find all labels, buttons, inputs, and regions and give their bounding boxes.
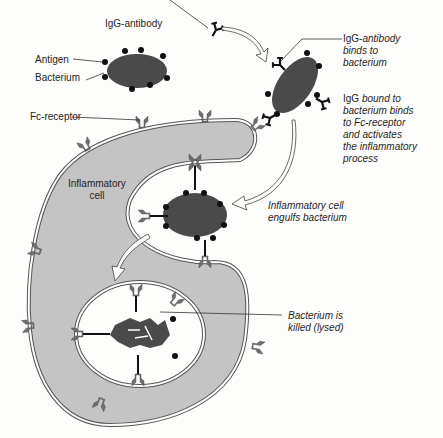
label-igg-antibody: IgG-antibody (105, 18, 162, 30)
step-binds: IgG-antibody binds to bacterium (343, 33, 400, 69)
fc-receptor-icon (251, 340, 265, 354)
opsonized-bacterium (260, 49, 331, 128)
free-bacterium (102, 47, 170, 92)
step-activates: IgG bound to bacterium binds to Fc-recep… (343, 93, 417, 165)
cropped-header: — — — — — — — — — — — — — (0, 0, 443, 4)
step-engulfs: Inflammatory cell engulfs bacterium (268, 200, 347, 224)
label-inflammatory-cell: Inflammatory cell (68, 178, 126, 202)
label-fc-receptor: Fc-receptor (30, 111, 81, 123)
fc-receptor-icon (136, 116, 148, 128)
label-bacterium: Bacterium (35, 72, 80, 84)
label-antigen: Antigen (35, 54, 69, 66)
step-killed: Bacterium is killed (lysed) (288, 310, 344, 334)
fc-receptor-icon (138, 210, 150, 222)
